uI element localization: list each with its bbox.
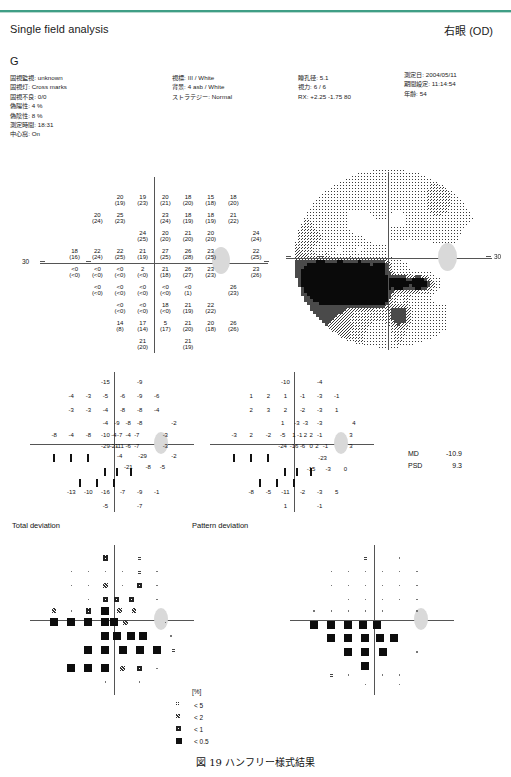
figure-caption: 図 19 ハンフリー様式結果 <box>0 754 511 769</box>
p05-symbol-icon <box>101 664 109 672</box>
p05-symbol-icon <box>344 621 352 629</box>
p2-symbol-icon <box>123 620 128 625</box>
censored-marker <box>87 454 89 462</box>
sensitivity-value: <0(1) <box>180 284 196 296</box>
normal-point-icon <box>156 571 158 573</box>
normal-point-icon <box>105 571 107 573</box>
sensitivity-value: <0(<0) <box>112 266 128 278</box>
sensitivity-value: 22(24) <box>89 248 105 260</box>
pattern-deviation-value: -23 <box>316 455 330 461</box>
total-deviation-value: -3 <box>81 407 95 413</box>
info-line: 固視監視: unknown <box>10 73 67 82</box>
total-deviation-value: -5 <box>155 464 169 470</box>
total-deviation-value: -9 <box>133 379 147 385</box>
normal-point-icon <box>348 610 350 612</box>
total-deviation-value: -6 <box>150 393 164 399</box>
legend-label: < 1 <box>194 726 203 733</box>
global-indices: MD-10.9 PSD9.3 <box>408 448 462 472</box>
legend-row: < 5 <box>176 700 286 712</box>
sensitivity-value: 26(26) <box>225 320 241 332</box>
normal-point-icon <box>416 571 418 573</box>
sensitivity-value: 21(20) <box>180 230 196 242</box>
sensitivity-value: <0(<0) <box>135 284 151 296</box>
normal-point-icon <box>416 585 418 587</box>
sensitivity-value: 21(20) <box>135 338 151 350</box>
p2-symbol-icon <box>52 608 57 613</box>
pattern-deviation-value: 2 <box>244 407 258 413</box>
pattern-deviation-value: 5 <box>330 489 344 495</box>
censored-marker <box>233 454 235 462</box>
axis-tick <box>154 219 155 224</box>
censored-marker <box>276 479 278 487</box>
normal-point-icon <box>348 571 350 573</box>
legend-row: < 1 <box>176 724 286 736</box>
p5-symbol-icon <box>138 556 141 560</box>
total-deviation-value: -21 <box>121 464 135 470</box>
p05-symbol-icon <box>84 664 92 672</box>
normal-point-icon <box>365 684 367 686</box>
normal-point-icon <box>416 599 418 601</box>
normal-point-icon <box>331 571 333 573</box>
normal-point-icon <box>122 585 124 587</box>
total-deviation-value: -2 <box>167 420 181 426</box>
total-deviation-value: -2 <box>167 453 181 459</box>
normal-point-icon <box>365 571 367 573</box>
sensitivity-value: 21(22) <box>225 212 241 224</box>
pattern-deviation-value: 1 <box>278 503 292 509</box>
sensitivity-value: 14(8) <box>112 320 128 332</box>
normal-point-icon <box>105 681 107 683</box>
sensitivity-value: 20(24) <box>89 212 105 224</box>
pattern-deviation-value: -11 <box>278 489 292 495</box>
p05-symbol-icon <box>84 646 92 654</box>
censored-marker <box>259 479 261 487</box>
p05-symbol-icon <box>101 646 109 654</box>
normal-point-icon <box>348 599 350 601</box>
axis-range-label: 30 <box>494 253 501 260</box>
sensitivity-value: <0(<0) <box>135 302 151 314</box>
normal-point-icon <box>331 610 333 612</box>
p05-symbol-icon <box>176 738 182 744</box>
p05-symbol-icon <box>327 634 335 642</box>
sensitivity-value: <0(<0) <box>112 284 128 296</box>
normal-point-icon <box>382 599 384 601</box>
sensitivity-value: 19(23) <box>135 194 151 206</box>
normal-point-icon <box>313 610 315 612</box>
total-deviation-value: -4 <box>113 453 127 459</box>
axis-tick <box>154 177 155 182</box>
pattern-deviation-value: 1 <box>330 407 344 413</box>
p05-symbol-icon <box>153 646 161 654</box>
pattern-deviation-value: -2 <box>296 489 310 495</box>
pattern-deviation-value: -3 <box>313 393 327 399</box>
pattern-deviation-probability-plot <box>268 545 468 695</box>
p5-symbol-icon <box>330 673 333 677</box>
total-deviation-probability-plot <box>8 545 208 695</box>
normal-point-icon <box>382 585 384 587</box>
axis-tick <box>86 261 91 262</box>
p5-symbol-icon <box>172 648 175 652</box>
info-line: 瞳孔径: 5.1 <box>298 73 351 82</box>
total-deviation-value: -4 <box>64 432 78 438</box>
info-line: 視標: III / White <box>172 73 232 82</box>
normal-point-icon <box>365 599 367 601</box>
p05-symbol-icon <box>136 646 144 654</box>
p05-symbol-icon <box>119 646 127 654</box>
normal-point-icon <box>71 585 73 587</box>
sensitivity-value: 22(25) <box>112 248 128 260</box>
p05-symbol-icon <box>361 648 369 656</box>
p05-symbol-icon <box>390 634 398 642</box>
vertical-axis <box>388 172 389 350</box>
pattern-deviation-value: 3 <box>344 443 358 449</box>
normal-point-icon <box>88 585 90 587</box>
axis-tick <box>154 305 155 310</box>
grayscale-plot: 30 <box>280 170 502 352</box>
sensitivity-value: 21(19) <box>135 248 151 260</box>
p05-symbol-icon <box>310 621 318 629</box>
sensitivity-value: 21(18) <box>157 266 173 278</box>
total-deviation-value: -7 <box>130 443 144 449</box>
axis-tick <box>264 261 269 262</box>
axis-tick <box>388 300 389 305</box>
pattern-deviation-value: 2 <box>261 393 275 399</box>
normal-point-icon <box>399 571 401 573</box>
pattern-deviation-label: Pattern deviation <box>192 521 248 530</box>
psd-value: 9.3 <box>432 460 462 472</box>
